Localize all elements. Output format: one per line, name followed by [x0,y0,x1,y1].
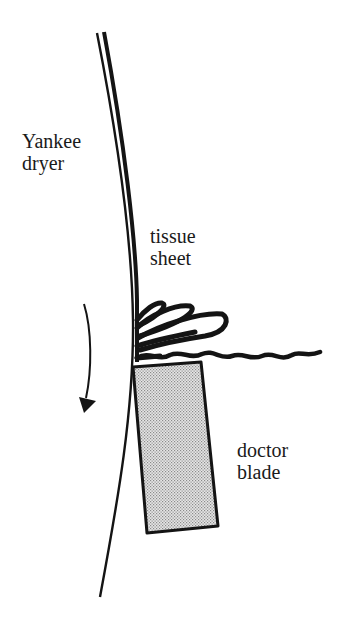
arrow-down-icon [79,397,96,413]
label-tissue-sheet: tissue sheet [150,225,196,269]
rotation-arrow-shaft [84,304,90,398]
yankee-creping-diagram [0,0,348,623]
doctor-blade-shape [133,362,218,533]
label-doctor-blade: doctor blade [237,439,288,483]
label-yankee-dryer-line2: dryer [22,152,64,174]
label-tissue-sheet-line2: sheet [150,247,191,269]
label-doctor-blade-line1: doctor [237,439,288,461]
crepe-folds [137,303,226,358]
label-yankee-dryer: Yankee dryer [22,130,81,174]
dryer-surface [97,33,133,597]
label-yankee-dryer-line1: Yankee [22,130,81,152]
creped-sheet-wave [137,352,320,358]
label-tissue-sheet-line1: tissue [150,225,196,247]
label-doctor-blade-line2: blade [237,461,280,483]
